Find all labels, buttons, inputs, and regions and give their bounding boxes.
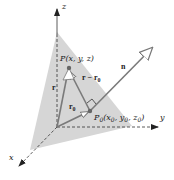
- x-axis-label: x: [9, 154, 14, 162]
- point-P-coords: (x, y, z): [65, 54, 94, 63]
- plane-shading: [30, 32, 132, 150]
- diff-main: r − r: [82, 73, 98, 82]
- point-P-label: P(x, y, z): [60, 55, 94, 63]
- diff-sub: 0: [98, 77, 101, 83]
- diagram-canvas: [0, 0, 174, 180]
- vector-r0-label: r0: [69, 103, 76, 112]
- vector-r-label: r: [52, 84, 56, 92]
- point-P0-label: P0(x0, y0, z0): [94, 114, 144, 123]
- plane-normal-diagram: z y x P(x, y, z) r r − r0 n r0 P0(x0, y0…: [0, 0, 174, 180]
- p0-y: , y: [115, 113, 125, 122]
- vector-n-label: n: [121, 63, 125, 71]
- p0-close: ): [141, 113, 144, 122]
- y-axis-label: y: [160, 114, 165, 122]
- point-P0: [88, 109, 92, 113]
- z-axis-label: z: [62, 3, 66, 11]
- vector-r-minus-r0-label: r − r0: [82, 74, 101, 83]
- point-P: [67, 66, 71, 70]
- r0-sub: 0: [73, 106, 76, 112]
- p0-x: (x: [103, 113, 111, 122]
